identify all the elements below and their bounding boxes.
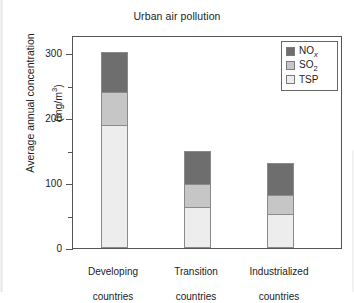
legend-item-tsp[interactable]: TSP — [286, 73, 333, 86]
x-axis-label-transition-line2: countries — [176, 291, 217, 302]
legend-item-nox[interactable]: NOx — [286, 45, 333, 58]
bar-segment-so2-developing[interactable] — [101, 92, 128, 125]
y-tick-mark-0 — [66, 249, 73, 250]
legend-swatch-nox-icon — [286, 47, 295, 56]
x-axis-label-developing-line1: Developing — [88, 266, 138, 277]
y-axis-title-unit-exponent: 3 — [50, 88, 59, 92]
y-tick-label-200: 200 — [22, 113, 62, 124]
legend-label-so2: SO2 — [299, 59, 318, 73]
bar-segment-nox-transition[interactable] — [184, 151, 211, 185]
y-tick-label-300: 300 — [22, 48, 62, 59]
bar-segment-so2-transition[interactable] — [184, 184, 211, 207]
bar-industrialized-countries[interactable] — [267, 163, 294, 248]
legend-label-nox: NOx — [299, 45, 318, 59]
page-edge-artifact — [0, 0, 3, 292]
x-axis-label-industrialized-line1: Industrialized — [250, 266, 309, 277]
legend-swatch-so2-icon — [286, 61, 295, 70]
plot-area: NOx SO2 TSP — [72, 36, 342, 249]
bar-segment-tsp-transition[interactable] — [184, 207, 211, 248]
y-axis-title-unit-suffix: ) — [52, 84, 64, 88]
x-axis-label-developing-line2: countries — [93, 291, 134, 302]
legend-item-so2[interactable]: SO2 — [286, 59, 333, 72]
y-tick-label-100: 100 — [22, 178, 62, 189]
bar-segment-so2-industrialized[interactable] — [267, 195, 294, 214]
bar-segment-tsp-developing[interactable] — [101, 125, 128, 249]
y-axis-title: Average annual concentration (mg/m3) — [11, 8, 65, 198]
legend-swatch-tsp-icon — [286, 75, 295, 84]
bar-segment-nox-developing[interactable] — [101, 52, 128, 92]
bar-transition-countries[interactable] — [184, 151, 211, 248]
legend: NOx SO2 TSP — [281, 41, 338, 91]
y-tick-label-0: 0 — [22, 243, 62, 254]
bar-segment-nox-industrialized[interactable] — [267, 163, 294, 195]
x-axis-label-transition-line1: Transition — [174, 266, 218, 277]
bar-developing-countries[interactable] — [101, 52, 128, 248]
x-axis-label-industrialized-line2: countries — [259, 291, 300, 302]
bar-segment-tsp-industrialized[interactable] — [267, 214, 294, 248]
x-axis-label-industrialized-countries: Industrialized countries — [224, 253, 334, 303]
legend-label-tsp: TSP — [299, 74, 318, 85]
